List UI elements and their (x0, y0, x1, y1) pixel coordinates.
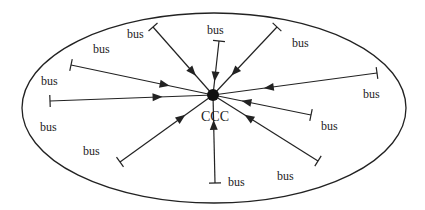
connection-line (213, 95, 318, 161)
bus-labels: busbusbusbusbusbusbusbusbusbusbus (40, 23, 380, 189)
bus-spoke-top (212, 40, 225, 95)
bus-terminal-bar (116, 157, 123, 167)
ccc-label: CCC (201, 109, 229, 124)
arrowhead-icon (152, 93, 162, 101)
bus-terminal-bar (213, 40, 225, 41)
network-boundary-ellipse (22, 13, 406, 203)
arrowhead-icon (264, 83, 274, 91)
connection-line (213, 41, 219, 95)
bus-spoke-left-upper (70, 59, 213, 95)
arrowhead-icon (159, 80, 170, 88)
arrowhead-icon (244, 115, 255, 124)
arrowhead-icon (175, 115, 185, 124)
star-topology-diagram: busbusbusbusbusbusbusbusbusbusbus CCC (0, 0, 425, 210)
bus-label-left-upper: bus (93, 42, 110, 56)
bus-label-lower-right: bus (277, 169, 294, 183)
bus-label-bottom: bus (228, 175, 245, 189)
bus-label-top: bus (207, 23, 224, 37)
arrowhead-icon (212, 71, 220, 81)
bus-terminal-bar (376, 67, 378, 79)
bus-spoke-left (50, 93, 213, 107)
arrowhead-icon (241, 99, 252, 107)
connection-line (120, 95, 213, 162)
bus-spoke-upper-left (149, 23, 213, 95)
bus-label-extra: bus (40, 120, 57, 134)
connection-line (213, 27, 277, 95)
bus-label-upper-left: bus (127, 27, 144, 41)
connection-line (50, 95, 213, 101)
bus-label-right: bus (363, 87, 380, 101)
bus-label-upper-right: bus (292, 36, 309, 50)
bus-label-right-lower: bus (321, 119, 338, 133)
bus-label-lower-left: bus (83, 144, 100, 158)
bus-spoke-lower-left (116, 95, 213, 167)
ccc-hub-node (207, 89, 219, 101)
bus-terminal-bar (315, 156, 321, 166)
connection-line (213, 73, 377, 95)
bus-label-left: bus (41, 74, 58, 88)
